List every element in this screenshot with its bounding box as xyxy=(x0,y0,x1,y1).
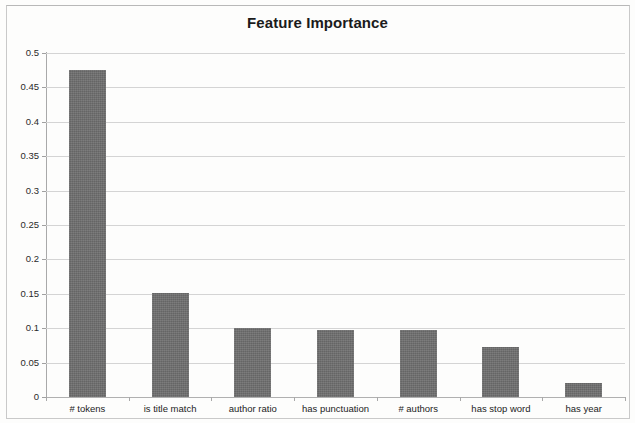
x-tick-mark xyxy=(460,397,461,401)
y-tick-mark xyxy=(42,363,46,364)
chart-title: Feature Importance xyxy=(0,14,635,31)
y-axis-tick-label: 0.1 xyxy=(26,323,39,333)
x-tick-mark xyxy=(46,397,47,401)
y-axis-tick-label: 0.05 xyxy=(21,358,40,368)
x-tick-mark xyxy=(211,397,212,401)
x-axis-tick-label: # tokens xyxy=(69,404,105,414)
y-tick-mark xyxy=(42,259,46,260)
bar xyxy=(565,383,602,397)
y-tick-mark xyxy=(42,225,46,226)
bar xyxy=(317,330,354,397)
y-tick-mark xyxy=(42,156,46,157)
y-tick-mark xyxy=(42,87,46,88)
x-tick-mark xyxy=(129,397,130,401)
y-tick-mark xyxy=(42,53,46,54)
gridline: 0.35 xyxy=(46,156,625,157)
x-axis-tick-label: author ratio xyxy=(229,404,277,414)
gridline: 0.25 xyxy=(46,225,625,226)
x-tick-mark xyxy=(625,397,626,401)
y-axis-tick-label: 0.3 xyxy=(26,186,39,196)
gridline: 0.3 xyxy=(46,191,625,192)
y-axis-tick-label: 0.25 xyxy=(21,220,40,230)
y-tick-mark xyxy=(42,294,46,295)
feature-importance-chart: Feature Importance 00.050.10.150.20.250.… xyxy=(0,0,635,423)
y-tick-mark xyxy=(42,122,46,123)
gridline: 0 xyxy=(46,397,625,398)
y-axis-tick-label: 0.2 xyxy=(26,255,39,265)
y-axis-tick-label: 0.15 xyxy=(21,289,40,299)
x-tick-mark xyxy=(377,397,378,401)
x-axis-tick-label: has punctuation xyxy=(302,404,369,414)
y-axis-tick-label: 0.45 xyxy=(21,83,40,93)
y-tick-mark xyxy=(42,328,46,329)
y-axis-tick-label: 0.4 xyxy=(26,117,39,127)
gridline: 0.5 xyxy=(46,53,625,54)
y-axis-tick-label: 0 xyxy=(34,392,39,402)
gridline: 0.2 xyxy=(46,259,625,260)
gridline: 0.15 xyxy=(46,294,625,295)
bar xyxy=(482,347,519,397)
bar xyxy=(400,330,437,397)
bar xyxy=(152,293,189,397)
x-axis-tick-label: has stop word xyxy=(471,404,530,414)
bar xyxy=(234,328,271,397)
gridline: 0.45 xyxy=(46,87,625,88)
y-axis-tick-label: 0.35 xyxy=(21,151,40,161)
x-tick-mark xyxy=(542,397,543,401)
y-axis-tick-label: 0.5 xyxy=(26,48,39,58)
y-tick-mark xyxy=(42,191,46,192)
x-axis-tick-label: has year xyxy=(565,404,601,414)
plot-area: 00.050.10.150.20.250.30.350.40.450.5 xyxy=(46,53,625,397)
x-tick-mark xyxy=(294,397,295,401)
x-axis-tick-label: # authors xyxy=(398,404,438,414)
gridline: 0.4 xyxy=(46,122,625,123)
x-axis-tick-label: is title match xyxy=(144,404,197,414)
bar xyxy=(69,70,106,397)
